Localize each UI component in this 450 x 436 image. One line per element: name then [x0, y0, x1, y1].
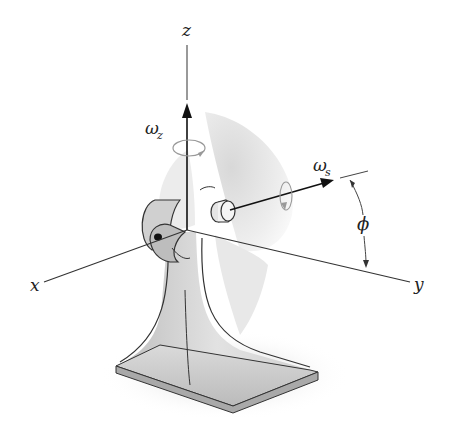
- phi-label: ϕ: [357, 213, 369, 234]
- svg-text:z: z: [156, 129, 163, 142]
- omega-z-rotation-arrow: [173, 140, 205, 157]
- fan-hub: [211, 200, 235, 222]
- z-axis-label: z: [181, 20, 192, 40]
- fan-diagram: z x y ω z ω s ϕ: [0, 0, 450, 436]
- y-axis-label: y: [413, 274, 424, 294]
- x-axis-label: x: [30, 275, 40, 295]
- omega-s-label: ω s: [313, 155, 331, 179]
- svg-text:s: s: [325, 166, 331, 179]
- omega-z-label: ω z: [145, 118, 163, 142]
- fan-blade-upper: [205, 112, 293, 251]
